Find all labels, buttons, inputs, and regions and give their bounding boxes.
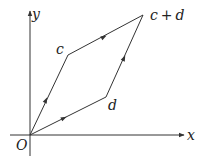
- x-axis-label: x: [187, 127, 195, 143]
- point-c-plus-d-label: c+d: [150, 7, 185, 23]
- vector-o-to-d: [30, 97, 106, 135]
- arrowhead-icon-d-cd: [121, 54, 127, 61]
- parallelogram-diagram: y x O c d c+d: [0, 0, 203, 160]
- y-axis-label: y: [31, 6, 41, 22]
- point-c-label: c: [56, 41, 64, 57]
- origin-label: O: [16, 137, 28, 153]
- vector-o-to-c: [30, 55, 68, 135]
- point-d-label: d: [108, 97, 117, 113]
- arrowhead-icon-o-d: [60, 115, 67, 122]
- vector-c-to-cd: [68, 15, 143, 55]
- vector-d-to-cd: [106, 15, 143, 97]
